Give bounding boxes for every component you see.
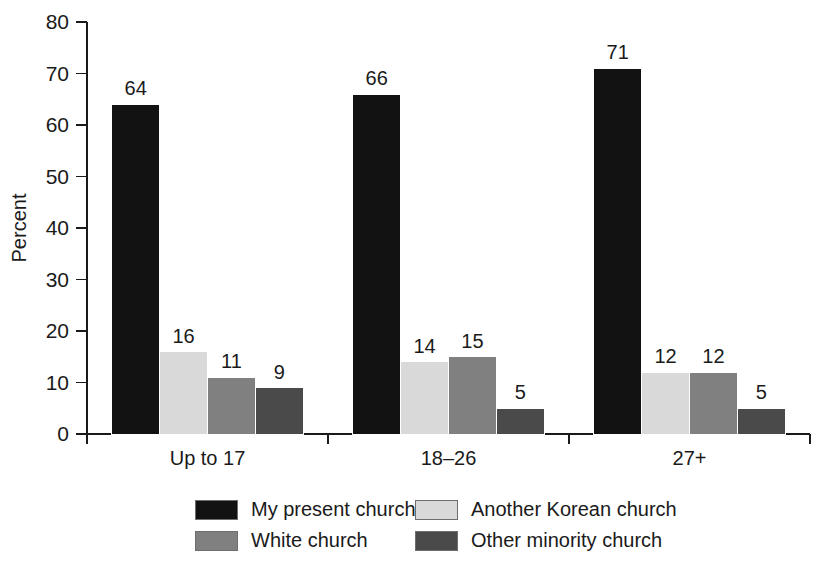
y-axis-title: Percent <box>8 193 30 262</box>
y-axis: 01020304050607080 <box>46 10 87 445</box>
bar-value-label: 5 <box>515 381 526 403</box>
bar-value-label: 64 <box>125 77 147 99</box>
x-axis-category-label: 27+ <box>673 447 707 469</box>
bar-value-label: 9 <box>274 361 285 383</box>
y-axis-tick-label: 70 <box>46 62 69 85</box>
y-axis-tick-label: 0 <box>57 422 69 445</box>
legend-swatch <box>195 500 237 519</box>
bar <box>496 408 544 434</box>
legend-swatch <box>415 500 457 519</box>
legend-item: Other minority church <box>415 529 662 551</box>
x-axis-category-label: Up to 17 <box>170 447 246 469</box>
legend-label: Another Korean church <box>471 498 677 520</box>
chart-canvas: 01020304050607080 Percent 64161196614155… <box>0 0 821 573</box>
bar-value-label: 66 <box>366 67 388 89</box>
bars-layer <box>112 68 786 434</box>
bar-chart-figure: 01020304050607080 Percent 64161196614155… <box>0 0 821 573</box>
y-axis-tick-label: 10 <box>46 371 69 394</box>
chart-legend: My present churchAnother Korean churchWh… <box>195 498 677 551</box>
bar <box>594 68 642 434</box>
bar <box>737 408 785 434</box>
bar <box>255 388 303 434</box>
legend-item: My present church <box>195 498 416 520</box>
bar <box>353 94 401 434</box>
bar <box>642 372 690 434</box>
legend-label: Other minority church <box>471 529 662 551</box>
y-axis-tick-label: 30 <box>46 268 69 291</box>
bar <box>449 357 497 434</box>
bar-value-label: 16 <box>172 325 194 347</box>
bar-value-label: 12 <box>654 345 676 367</box>
bar-value-label: 15 <box>461 330 483 352</box>
legend-label: My present church <box>251 498 416 520</box>
bar <box>690 372 738 434</box>
y-axis-tick-label: 20 <box>46 319 69 342</box>
bar <box>160 352 208 434</box>
y-axis-tick-label: 80 <box>46 10 69 33</box>
y-axis-tick-label: 60 <box>46 113 69 136</box>
legend-label: White church <box>251 529 368 551</box>
bar <box>208 377 256 434</box>
x-axis-category-label: 18–26 <box>421 447 477 469</box>
y-axis-tick-label: 40 <box>46 216 69 239</box>
x-axis <box>87 434 810 444</box>
y-axis-tick-label: 50 <box>46 165 69 188</box>
y-axis-title-text: Percent <box>8 193 30 262</box>
legend-swatch <box>195 531 237 550</box>
category-labels-layer: Up to 1718–2627+ <box>170 447 707 469</box>
legend-item: Another Korean church <box>415 498 677 520</box>
legend-item: White church <box>195 529 368 551</box>
legend-swatch <box>415 531 457 550</box>
bar-value-label: 71 <box>607 41 629 63</box>
bar <box>401 362 449 434</box>
bar-value-label: 12 <box>702 345 724 367</box>
bar-value-label: 11 <box>221 350 242 372</box>
bar-value-label: 5 <box>756 381 767 403</box>
bar-value-label: 14 <box>413 335 435 357</box>
value-labels-layer: 641611966141557112125 <box>125 41 767 403</box>
bar <box>112 104 160 434</box>
